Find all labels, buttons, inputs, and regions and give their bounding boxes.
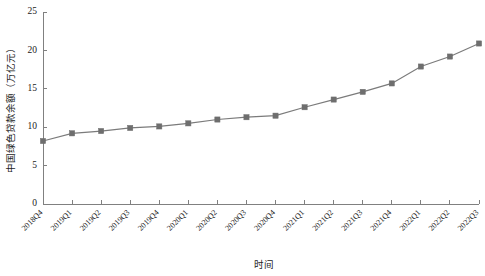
y-tick-label: 10: [28, 121, 38, 131]
line-chart: 0510152025 2018Q42019Q12019Q22019Q32019Q…: [0, 0, 485, 276]
y-tick-label: 20: [28, 45, 38, 55]
y-tick-label: 15: [28, 83, 38, 93]
data-series: [40, 41, 481, 144]
x-tick-label: 2021Q4: [369, 208, 394, 233]
axis-titles: 时间 中国绿色贷款余额（万亿元）: [5, 43, 274, 270]
x-tick-label: 2019Q1: [49, 208, 74, 233]
chart-canvas: 0510152025 2018Q42019Q12019Q22019Q32019Q…: [0, 0, 485, 276]
data-point-marker: [447, 54, 452, 59]
x-tick-label: 2021Q2: [310, 208, 335, 233]
y-tick-label: 0: [32, 198, 37, 208]
data-point-marker: [360, 89, 365, 94]
chart-axes: [43, 12, 479, 204]
data-point-marker: [128, 125, 133, 130]
x-tick-label: 2020Q1: [165, 208, 190, 233]
data-point-marker: [69, 131, 74, 136]
x-tick-label: 2018Q4: [20, 208, 45, 233]
x-tick-label: 2020Q2: [194, 208, 219, 233]
x-tick-label: 2021Q3: [340, 208, 365, 233]
y-axis-ticks: 0510152025: [28, 6, 48, 208]
x-tick-label: 2021Q1: [281, 208, 306, 233]
series-line: [43, 43, 479, 141]
x-tick-label: 2022Q1: [398, 208, 423, 233]
data-point-marker: [476, 41, 481, 46]
data-point-marker: [186, 121, 191, 126]
data-point-marker: [302, 105, 307, 110]
data-point-marker: [244, 115, 249, 120]
data-point-marker: [215, 117, 220, 122]
data-point-marker: [389, 81, 394, 86]
y-tick-label: 25: [28, 6, 38, 16]
x-axis-title: 时间: [254, 259, 274, 270]
x-tick-label: 2022Q3: [456, 208, 481, 233]
x-tick-label: 2022Q2: [427, 208, 452, 233]
x-axis-ticks: 2018Q42019Q12019Q22019Q32019Q42020Q12020…: [20, 200, 481, 233]
data-point-marker: [157, 124, 162, 129]
x-tick-label: 2019Q2: [78, 208, 103, 233]
data-point-marker: [99, 128, 104, 133]
x-tick-label: 2020Q4: [252, 208, 277, 233]
x-tick-label: 2019Q4: [136, 208, 161, 233]
y-axis-title: 中国绿色贷款余额（万亿元）: [5, 43, 16, 173]
x-tick-label: 2019Q3: [107, 208, 132, 233]
data-point-marker: [331, 97, 336, 102]
data-point-marker: [40, 138, 45, 143]
data-point-marker: [273, 113, 278, 118]
data-point-marker: [418, 64, 423, 69]
y-tick-label: 5: [32, 160, 37, 170]
x-tick-label: 2020Q3: [223, 208, 248, 233]
